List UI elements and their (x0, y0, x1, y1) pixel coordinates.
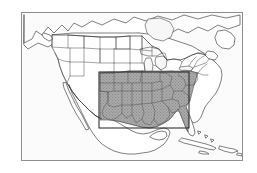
newfoundland-island (215, 30, 235, 49)
puerto-rico-island (237, 153, 242, 156)
jamaica-island (199, 151, 209, 154)
locator-map-figure (0, 0, 257, 173)
cuba-island (179, 138, 216, 150)
hispaniola-island (219, 146, 238, 153)
map-frame (21, 12, 243, 161)
bahamas-islands (198, 131, 214, 142)
north-america-map (22, 13, 242, 160)
